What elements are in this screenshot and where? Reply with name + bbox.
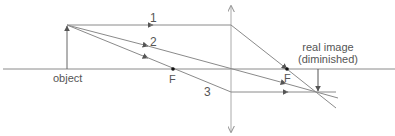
- ray-2-cont2: [284, 83, 338, 98]
- ray-1-refracted: [231, 25, 287, 69]
- ray-3-cont: [146, 57, 231, 92]
- object-label: object: [53, 73, 82, 84]
- image-label: real image (diminished): [293, 42, 363, 65]
- ray-2-incident: [67, 25, 148, 46]
- focal-left-label: F: [169, 74, 176, 85]
- ray-3-label: 3: [204, 86, 211, 98]
- focal-point-right: [285, 67, 289, 71]
- ray-2-label: 2: [150, 36, 157, 48]
- image-label-line2: (diminished): [293, 54, 363, 65]
- focal-right-label: F: [284, 73, 291, 84]
- ray-3-incident: [67, 25, 148, 58]
- ray-diagram: [0, 0, 395, 136]
- focal-point-left: [171, 67, 175, 71]
- ray-1-label: 1: [150, 12, 157, 24]
- ray-1-refracted-cont: [285, 68, 336, 109]
- image-label-line1: real image: [293, 42, 363, 53]
